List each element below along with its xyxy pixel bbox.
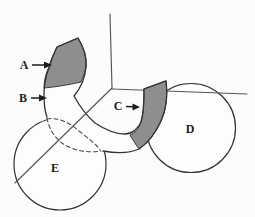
label-c: C (114, 99, 123, 113)
label-a: A (20, 58, 29, 72)
vertical-corner-line (110, 14, 112, 88)
diagram-figure: A B C D E (0, 0, 255, 217)
label-d: D (186, 122, 195, 136)
label-c-arrow-icon (126, 104, 140, 111)
label-b: B (19, 91, 27, 105)
label-e: E (51, 161, 59, 175)
diagram-canvas: A B C D E (0, 0, 255, 217)
